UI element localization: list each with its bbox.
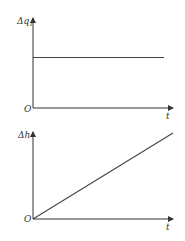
bottom-chart: Δh O t — [17, 130, 173, 232]
top-x-label: t — [166, 111, 170, 121]
top-origin-label: O — [24, 104, 32, 114]
top-y-label: Δq1 — [16, 16, 33, 27]
bottom-y-label: Δh — [17, 130, 30, 140]
bottom-x-label: t — [166, 222, 170, 232]
top-chart: Δq1 O t — [16, 16, 173, 121]
bottom-ramp-line — [33, 133, 173, 219]
bottom-origin-label: O — [24, 214, 32, 224]
charts: Δq1 O t Δh O t — [0, 0, 185, 241]
